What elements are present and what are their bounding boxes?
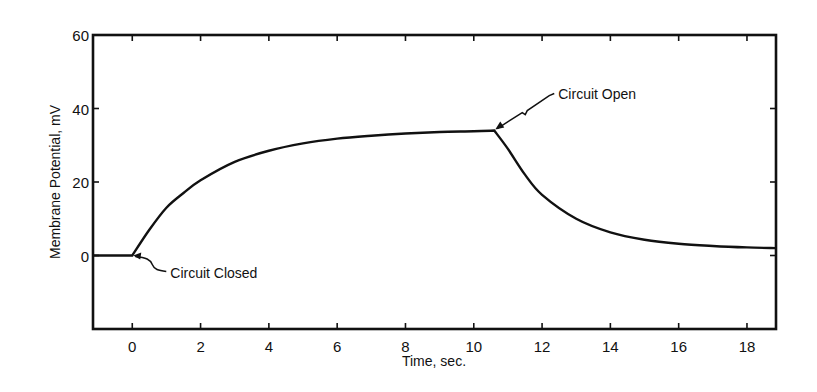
y-axis-ticks: 0204060 <box>72 27 776 265</box>
annotations: Circuit ClosedCircuit Open <box>133 86 636 281</box>
x-tick-label: 10 <box>465 338 482 355</box>
arrowhead-icon <box>495 122 504 130</box>
y-tick-label: 60 <box>72 27 89 44</box>
x-tick-label: 18 <box>739 338 756 355</box>
circuit-open-leader <box>497 94 554 129</box>
plot-frame <box>93 35 776 329</box>
x-axis-label: Time, sec. <box>402 353 466 369</box>
x-tick-label: 6 <box>333 338 341 355</box>
x-tick-label: 2 <box>196 338 204 355</box>
membrane-potential-chart: 024681012141618 0204060 Circuit ClosedCi… <box>0 0 817 392</box>
y-tick-label: 0 <box>81 248 89 265</box>
y-tick-label: 40 <box>72 101 89 118</box>
x-tick-label: 0 <box>128 338 136 355</box>
circuit-closed-annotation: Circuit Closed <box>170 265 257 281</box>
x-tick-label: 16 <box>670 338 687 355</box>
x-axis-ticks: 024681012141618 <box>128 35 755 355</box>
data-series <box>93 131 776 256</box>
x-tick-label: 4 <box>265 338 273 355</box>
membrane-potential-line <box>93 131 776 256</box>
plot-border <box>93 35 776 329</box>
y-axis-label: Membrane Potential, mV <box>47 104 63 259</box>
y-tick-label: 20 <box>72 174 89 191</box>
circuit-open-annotation: Circuit Open <box>558 86 636 102</box>
x-tick-label: 12 <box>534 338 551 355</box>
x-tick-label: 14 <box>602 338 619 355</box>
